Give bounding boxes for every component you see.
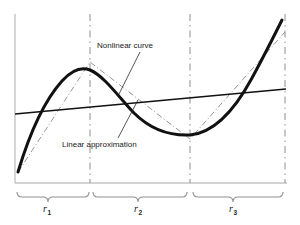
- linear-approximation-label: Linear approximation: [62, 140, 137, 149]
- nonlinear-curve-label: Nonlinear curve: [97, 41, 154, 50]
- figure-background: [0, 0, 300, 225]
- region-label-r3-sub: 3: [233, 209, 237, 216]
- figure-canvas: Nonlinear curve Linear approximation r1 …: [0, 0, 300, 225]
- region-label-r1-sub: 1: [47, 209, 51, 216]
- region-label-r2-base: r: [134, 203, 138, 214]
- region-label-r1-base: r: [43, 203, 47, 214]
- region-label-r3-base: r: [229, 203, 233, 214]
- region-label-r2-sub: 2: [138, 209, 142, 216]
